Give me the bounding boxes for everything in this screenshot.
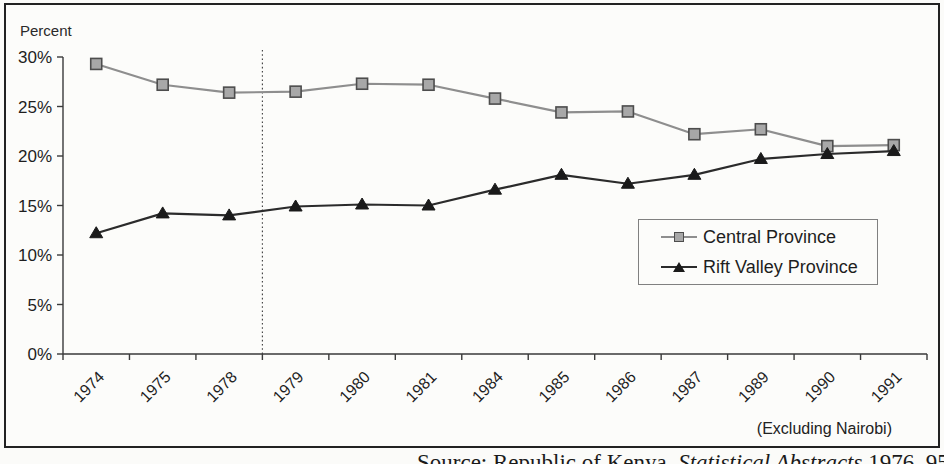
- source-note-years: 1976–95: [862, 450, 944, 464]
- x-axis-label: 1989: [735, 368, 772, 405]
- legend-label-rift-valley-province: Rift Valley Province: [703, 257, 858, 278]
- data-point-central-province: [157, 79, 168, 90]
- source-note-title: Statistical Abstracts: [678, 450, 862, 464]
- x-axis-label: 1974: [70, 368, 107, 405]
- y-axis-label: 10%: [18, 246, 52, 265]
- y-axis-title: Percent: [20, 22, 72, 39]
- series-line-central-province: [96, 64, 894, 146]
- legend-item-central-province: Central Province: [661, 227, 877, 248]
- data-point-central-province: [490, 93, 501, 104]
- y-axis-label: 30%: [18, 48, 52, 67]
- legend-item-rift-valley-province: Rift Valley Province: [661, 257, 877, 278]
- x-axis-label: 1986: [602, 368, 639, 405]
- y-axis-label: 5%: [27, 296, 52, 315]
- data-point-central-province: [357, 78, 368, 89]
- data-point-central-province: [224, 87, 235, 98]
- x-axis-label: 1990: [801, 368, 838, 405]
- rift-valley-province-marker-icon: [661, 261, 697, 274]
- legend-label-central-province: Central Province: [703, 227, 836, 248]
- data-point-rift-valley-province: [156, 207, 169, 218]
- x-axis-label: 1980: [336, 368, 373, 405]
- excluding-nairobi-note: (Excluding Nairobi): [757, 420, 892, 438]
- x-axis-label: 1978: [203, 368, 240, 405]
- data-point-central-province: [556, 107, 567, 118]
- y-axis-label: 20%: [18, 147, 52, 166]
- data-point-rift-valley-province: [555, 168, 568, 179]
- chart-frame: 0%5%10%15%20%25%30%197419751978197919801…: [4, 3, 940, 448]
- x-axis-label: 1981: [402, 368, 439, 405]
- legend: Central Province Rift Valley Province: [638, 219, 878, 285]
- source-note-prefix: Source: Republic of Kenya,: [417, 450, 678, 464]
- data-point-central-province: [423, 79, 434, 90]
- figure-page: 0%5%10%15%20%25%30%197419751978197919801…: [0, 0, 944, 464]
- x-axis-label: 1984: [469, 368, 506, 405]
- x-axis-label: 1975: [137, 368, 174, 405]
- data-point-central-province: [91, 58, 102, 69]
- x-axis-label: 1985: [535, 368, 572, 405]
- source-note: Source: Republic of Kenya, Statistical A…: [417, 450, 944, 464]
- central-province-marker-icon: [661, 231, 697, 244]
- y-axis-label: 25%: [18, 98, 52, 117]
- data-point-central-province: [755, 124, 766, 135]
- y-axis-label: 0%: [27, 345, 52, 364]
- x-axis-label: 1987: [668, 368, 705, 405]
- y-axis-label: 15%: [18, 197, 52, 216]
- x-axis-label: 1979: [270, 368, 307, 405]
- x-axis-label: 1991: [868, 368, 905, 405]
- data-point-central-province: [689, 129, 700, 140]
- data-point-central-province: [290, 86, 301, 97]
- data-point-central-province: [622, 106, 633, 117]
